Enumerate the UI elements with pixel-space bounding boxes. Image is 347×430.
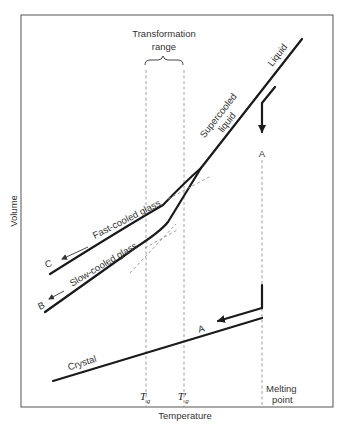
y-axis-label: Volume (8, 195, 19, 227)
svg-text:point: point (272, 394, 293, 405)
path-a-top-label: A (259, 148, 266, 159)
slow-cooled-glass-label: Slow-cooled glass (68, 239, 140, 288)
liquid-line (201, 39, 302, 168)
svg-text:g: g (147, 397, 151, 405)
crystal-line (53, 318, 262, 381)
melting-point-label: Melting point (266, 383, 297, 405)
x-axis-label: Temperature (158, 410, 211, 421)
fast-cooled-glass-label: Fast-cooled glass (91, 197, 163, 241)
liquid-label: Liquid (265, 41, 289, 68)
transformation-range-brace (145, 56, 183, 65)
transformation-range-label-line1: Transformation (132, 28, 196, 39)
plot-frame (21, 15, 333, 407)
svg-text:Melting: Melting (266, 383, 297, 394)
transformation-range-label-line2: range (152, 41, 176, 52)
path-c-label: C (43, 257, 53, 270)
tg-label: T g (140, 390, 151, 405)
path-a-bottom-label: A (197, 322, 207, 334)
tg-prime-label: T′ g (178, 390, 190, 405)
svg-text:g: g (185, 397, 189, 405)
path-a-top-arrow (262, 87, 275, 132)
path-b-arrow (49, 291, 64, 299)
volume-temperature-diagram: Transformation range Liquid Supercooled … (0, 0, 347, 430)
path-b-label: B (36, 299, 46, 312)
